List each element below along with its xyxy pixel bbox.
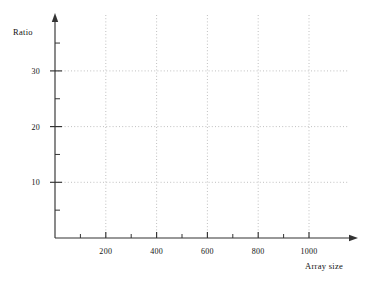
- x-tick-label: 600: [201, 247, 214, 256]
- axes-group: [52, 13, 358, 241]
- x-tick-label: 200: [99, 247, 112, 256]
- y-tick-label: 20: [18, 122, 40, 131]
- x-tick-label: 1000: [300, 247, 317, 256]
- y-tick-label: 10: [18, 178, 40, 187]
- gridlines-group: [55, 15, 349, 238]
- y-axis-arrowhead: [52, 13, 58, 22]
- y-tick-label: 30: [18, 66, 40, 75]
- y-axis-title: Ratio: [13, 27, 33, 37]
- x-tick-label: 800: [252, 247, 265, 256]
- tick-marks-group: [50, 43, 309, 238]
- x-axis-arrowhead: [349, 235, 358, 241]
- x-tick-label: 400: [150, 247, 163, 256]
- chart-figure: Ratio Array size 102030 2004006008001000: [0, 0, 373, 290]
- x-axis-title: Array size: [305, 261, 343, 271]
